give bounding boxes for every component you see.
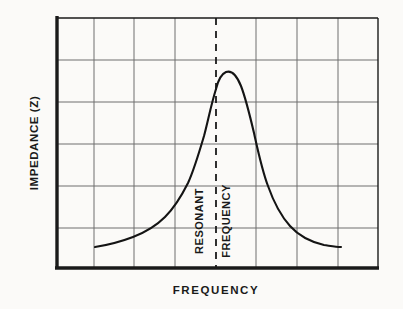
y-axis-title: IMPEDANCE (Z) <box>28 96 40 191</box>
annotation-frequency: FREQUENCY <box>220 184 232 258</box>
x-axis-title: FREQUENCY <box>173 284 260 296</box>
resonance-curve-figure: IMPEDANCE (Z) FREQUENCY RESONANT FREQUEN… <box>0 0 403 309</box>
chart-canvas: IMPEDANCE (Z) FREQUENCY RESONANT FREQUEN… <box>0 0 403 309</box>
figure-background <box>0 0 403 309</box>
annotation-resonant: RESONANT <box>193 188 205 254</box>
